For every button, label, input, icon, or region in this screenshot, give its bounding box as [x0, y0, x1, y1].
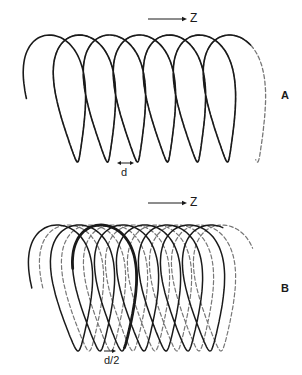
- z-arrow-a: [148, 17, 187, 21]
- helix-figure: [0, 0, 302, 375]
- solid-helix: [28, 225, 224, 351]
- z-arrow-b: [148, 201, 187, 205]
- dimension-arrow-d-half: [104, 349, 116, 353]
- panel-a-helices: [23, 35, 265, 162]
- dimension-label-d-half: d/2: [104, 354, 119, 366]
- dimension-label-d: d: [121, 166, 127, 178]
- highlighted-turn: [72, 225, 136, 348]
- panel-label-a: A: [281, 89, 289, 101]
- solid-helix: [23, 35, 250, 162]
- dashed-helix: [39, 225, 252, 351]
- z-axis-label-b: Z: [190, 195, 197, 209]
- panel-b-helices: [28, 225, 252, 351]
- z-axis-label-a: Z: [190, 11, 197, 25]
- dimension-arrow-d: [117, 161, 134, 165]
- panel-label-b: B: [281, 282, 289, 294]
